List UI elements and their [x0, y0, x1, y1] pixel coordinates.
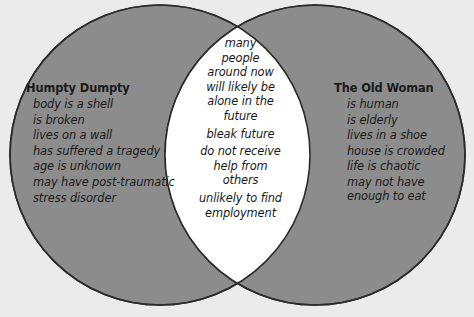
- list-item: may have post-traumatic: [33, 175, 175, 191]
- list-item: alone in the: [192, 94, 289, 109]
- venn-diagram: Humpty Dumpty body is a shell is broken …: [0, 0, 474, 317]
- list-item: unlikely to find: [192, 191, 289, 206]
- list-item: others: [192, 173, 289, 188]
- left-set-text-block: Humpty Dumpty body is a shell is broken …: [26, 81, 175, 206]
- list-item: house is crowded: [347, 144, 445, 160]
- right-set-text-block: The Old Woman is human is elderly lives …: [334, 81, 445, 204]
- venn-text-layer: Humpty Dumpty body is a shell is broken …: [0, 0, 474, 317]
- right-set-item-list: is human is elderly lives in a shoe hous…: [334, 97, 445, 204]
- list-item: body is a shell: [33, 97, 175, 113]
- left-set-item-list: body is a shell is broken lives on a wal…: [26, 97, 175, 206]
- list-item: stress disorder: [33, 191, 175, 207]
- list-item: many: [192, 36, 289, 51]
- list-item: future: [192, 109, 289, 124]
- list-item: has suffered a tragedy: [33, 144, 175, 160]
- list-item: life is chaotic: [347, 159, 445, 175]
- list-item: is human: [347, 97, 445, 113]
- list-item: may not have: [347, 175, 445, 189]
- list-item: is broken: [33, 113, 175, 129]
- list-item: people: [192, 51, 289, 66]
- left-set-heading: Humpty Dumpty: [26, 81, 175, 96]
- list-item: is elderly: [347, 113, 445, 129]
- list-item: around now: [192, 65, 289, 80]
- list-item: lives in a shoe: [347, 128, 445, 144]
- list-item: lives on a wall: [33, 128, 175, 144]
- right-set-heading: The Old Woman: [334, 81, 445, 96]
- list-item: do not receive: [192, 144, 289, 159]
- overlap-set-item-list: many people around now will likely be al…: [192, 36, 289, 220]
- list-item: help from: [192, 159, 289, 174]
- list-item: age is unknown: [33, 159, 175, 175]
- list-item: employment: [192, 206, 289, 221]
- overlap-set-text-block: many people around now will likely be al…: [192, 36, 289, 220]
- list-item: enough to eat: [347, 189, 445, 203]
- list-item: bleak future: [192, 127, 289, 142]
- list-item: will likely be: [192, 80, 289, 95]
